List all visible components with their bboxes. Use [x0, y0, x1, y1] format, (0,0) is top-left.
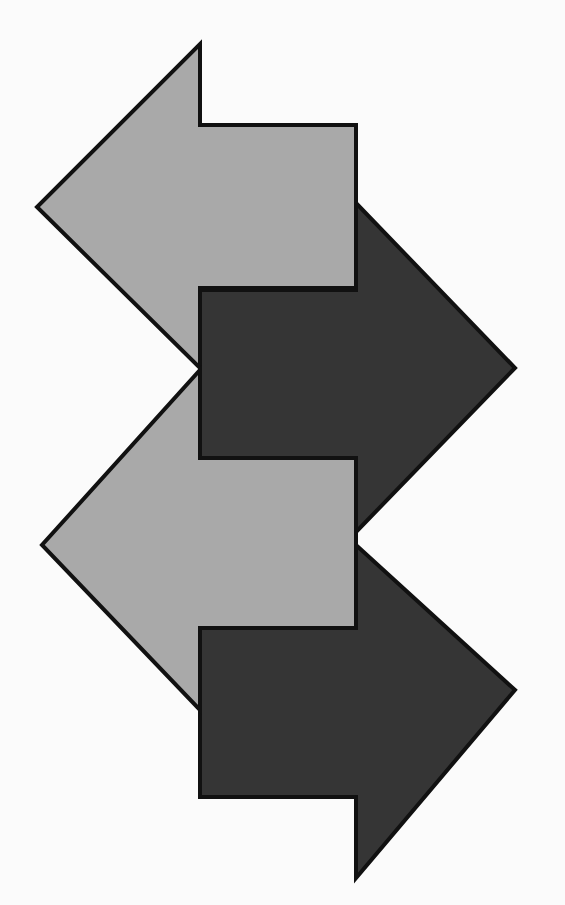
interlocking-arrows-diagram [0, 0, 565, 905]
